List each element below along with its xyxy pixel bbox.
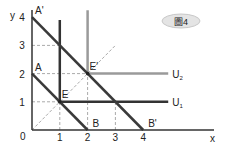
- equilibrium-label: E: [62, 89, 69, 100]
- budget-end-label: B': [148, 118, 157, 129]
- x-tick-label: 3: [113, 132, 119, 143]
- figure-label: 圖4: [174, 17, 188, 27]
- x-tick-label: 2: [85, 132, 91, 143]
- equilibrium-point: [86, 72, 90, 76]
- budget-end-label: B: [93, 118, 100, 129]
- origin-label: 0: [20, 131, 26, 142]
- figure-label-badge: 圖4: [162, 14, 200, 28]
- indifference-curve-label: U1: [172, 97, 183, 109]
- indifference-curve-label: U2: [172, 69, 183, 81]
- y-tick-label: 3: [19, 40, 25, 51]
- point-labels: EE': [58, 61, 98, 104]
- y-tick-label: 1: [19, 97, 25, 108]
- y-axis-label: y: [10, 10, 15, 21]
- equilibrium-point: [58, 100, 62, 104]
- equilibrium-label: E': [90, 61, 99, 72]
- x-tick-label: 4: [140, 132, 146, 143]
- y-tick-label: 4: [19, 12, 25, 23]
- x-tick-label: 1: [57, 132, 63, 143]
- axes: y x 0: [10, 10, 215, 144]
- x-axis-label: x: [210, 133, 215, 144]
- y-tick-label: 2: [19, 69, 25, 80]
- indifference-curve: [88, 10, 169, 73]
- budget-start-label: A: [35, 62, 42, 73]
- diagram: U1U2 ABA'B' y x 0 12341234 EE' 圖4: [0, 0, 228, 149]
- budget-start-label: A': [35, 5, 44, 16]
